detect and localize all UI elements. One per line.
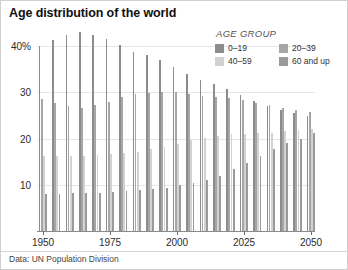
- legend-label: 40–59: [228, 56, 252, 66]
- bar: [273, 149, 275, 231]
- legend-label: 20–39: [292, 43, 316, 53]
- x-axis-tick-label: 1950: [32, 237, 54, 248]
- footer-divider: [1, 251, 347, 252]
- bar-group: [119, 23, 128, 231]
- bar-group: [79, 23, 88, 231]
- bar: [219, 176, 221, 231]
- bar: [112, 192, 114, 231]
- bar-group: [66, 23, 75, 231]
- y-axis-tick-label: 30: [0, 87, 31, 98]
- y-axis-tick-label: 10: [0, 179, 31, 190]
- source-note: Data: UN Population Division: [9, 254, 119, 264]
- bar: [246, 163, 248, 231]
- bar: [126, 191, 128, 231]
- legend-item-60-and-up: 60 and up: [279, 56, 337, 66]
- legend-label: 0–19: [228, 43, 247, 53]
- x-axis-tick: [311, 231, 312, 235]
- x-axis-tick-label: 2000: [166, 237, 188, 248]
- x-axis-tick: [177, 231, 178, 235]
- legend-swatch-icon: [279, 57, 288, 66]
- y-axis-tick-label: 20: [0, 133, 31, 144]
- bar: [233, 169, 235, 231]
- bar: [99, 193, 101, 231]
- bar-group: [133, 23, 142, 231]
- x-axis-tick: [43, 231, 44, 235]
- legend-swatch-icon: [279, 44, 288, 53]
- bar: [206, 180, 208, 231]
- bar: [45, 194, 47, 231]
- bar: [193, 183, 195, 231]
- bar: [85, 193, 87, 231]
- legend-title: AGE GROUP: [216, 28, 341, 39]
- legend-item-40-59: 40–59: [215, 56, 273, 66]
- x-axis-tick-label: 2025: [233, 237, 255, 248]
- bar: [260, 156, 262, 231]
- bar: [286, 143, 288, 231]
- x-axis-line: [37, 231, 315, 232]
- legend-item-0-19: 0–19: [215, 43, 273, 53]
- legend-swatch-icon: [215, 57, 224, 66]
- y-axis-tick-label: 40%: [0, 41, 31, 52]
- bar-group: [173, 23, 182, 231]
- bar: [300, 139, 302, 231]
- bar: [313, 133, 315, 231]
- bar-group: [106, 23, 115, 231]
- bar-group: [92, 23, 101, 231]
- bar-group: [200, 23, 209, 231]
- bar-group: [186, 23, 195, 231]
- bar-group: [159, 23, 168, 231]
- legend-label: 60 and up: [292, 56, 330, 66]
- x-axis-tick-label: 2050: [300, 237, 322, 248]
- page-title: Age distribution of the world: [9, 6, 176, 20]
- x-axis-tick: [110, 231, 111, 235]
- legend-row: 40–59 60 and up: [215, 56, 341, 66]
- bar: [179, 185, 181, 231]
- chart-figure: Age distribution of the world AGE GROUP …: [0, 0, 348, 270]
- x-axis-tick-label: 1975: [99, 237, 121, 248]
- x-axis-tick: [244, 231, 245, 235]
- legend-swatch-icon: [215, 44, 224, 53]
- bar: [59, 194, 61, 231]
- bar: [139, 190, 141, 231]
- bar-group: [146, 23, 155, 231]
- legend: AGE GROUP 0–19 20–39 40–59 60 and up: [215, 28, 341, 69]
- bar: [166, 188, 168, 231]
- legend-row: 0–19 20–39: [215, 43, 341, 53]
- bar-group: [39, 23, 48, 231]
- bar: [72, 193, 74, 231]
- bar-group: [52, 23, 61, 231]
- bar: [152, 189, 154, 231]
- legend-item-20-39: 20–39: [279, 43, 337, 53]
